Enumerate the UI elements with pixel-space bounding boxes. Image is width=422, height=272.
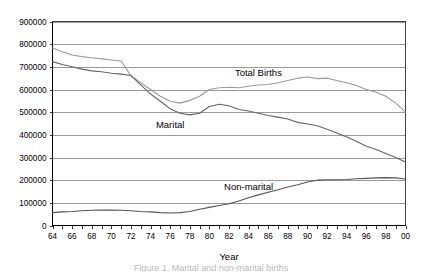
plot-frame — [53, 22, 406, 226]
y-tick-label: 300000 — [19, 154, 47, 163]
x-tick-label: 84 — [244, 232, 254, 241]
figure-caption: Figure 1. Marital and non-marital births — [134, 263, 289, 272]
gridlines-group — [53, 23, 406, 204]
x-tick-label: 96 — [362, 232, 372, 241]
x-tick-label: 88 — [283, 232, 293, 241]
x-tick-label: 86 — [264, 232, 274, 241]
x-tick-label: 82 — [224, 232, 234, 241]
y-axis-ticks-group: 0100000200000300000400000500000600000700… — [19, 18, 52, 231]
y-tick-label: 900000 — [19, 18, 47, 27]
x-axis-title: Year — [219, 251, 238, 262]
line-chart: 0100000200000300000400000500000600000700… — [0, 0, 422, 272]
y-tick-label: 700000 — [19, 63, 47, 72]
x-tick-label: 90 — [303, 232, 313, 241]
y-tick-label: 200000 — [19, 176, 47, 185]
x-tick-label: 74 — [146, 232, 156, 241]
y-tick-label: 800000 — [19, 40, 47, 49]
figure-container: 0100000200000300000400000500000600000700… — [0, 0, 422, 272]
x-tick-label: 92 — [323, 232, 333, 241]
x-axis-ticks-group: 64666870727476788082848688909294969800 — [48, 226, 411, 241]
series-line-total-births — [53, 48, 406, 112]
x-tick-label: 64 — [48, 232, 58, 241]
x-tick-label: 94 — [342, 232, 352, 241]
x-tick-label: 72 — [126, 232, 136, 241]
y-tick-label: 400000 — [19, 131, 47, 140]
x-tick-label: 66 — [68, 232, 78, 241]
series-label-marital: Marital — [156, 119, 185, 130]
y-tick-label: 0 — [42, 222, 47, 231]
series-label-total-births: Total Births — [235, 67, 282, 78]
series-labels-group: Total BirthsMaritalNon-marital — [156, 67, 282, 192]
x-tick-label: 70 — [107, 232, 117, 241]
x-tick-label: 80 — [205, 232, 215, 241]
y-tick-label: 500000 — [19, 108, 47, 117]
series-line-marital — [53, 62, 406, 162]
x-tick-label: 00 — [401, 232, 411, 241]
series-label-non-marital: Non-marital — [224, 181, 273, 192]
x-tick-label: 78 — [185, 232, 195, 241]
y-tick-label: 600000 — [19, 86, 47, 95]
x-tick-label: 76 — [166, 232, 176, 241]
x-tick-label: 98 — [381, 232, 391, 241]
x-tick-label: 68 — [87, 232, 97, 241]
y-tick-label: 100000 — [19, 199, 47, 208]
